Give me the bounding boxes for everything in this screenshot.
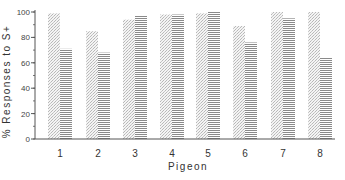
bar-pigeon-8-series-2 xyxy=(320,58,332,139)
bar-pigeon-1-series-1 xyxy=(48,13,60,139)
y-tick-label: 80 xyxy=(21,33,30,42)
bar-pigeon-8-series-1 xyxy=(308,12,320,139)
x-tick-label: 2 xyxy=(95,148,101,159)
bar-pigeon-4-series-1 xyxy=(160,15,172,139)
x-tick-label: 7 xyxy=(280,148,286,159)
bars-group xyxy=(48,12,332,139)
y-tick-label: 0 xyxy=(26,135,31,144)
bar-pigeon-2-series-2 xyxy=(98,53,110,139)
bar-pigeon-6-series-1 xyxy=(233,26,245,139)
x-tick-label: 3 xyxy=(132,148,138,159)
bar-pigeon-7-series-1 xyxy=(271,12,283,139)
y-tick-label: 40 xyxy=(21,84,30,93)
bar-pigeon-3-series-2 xyxy=(135,16,147,139)
x-tick-label: 8 xyxy=(317,148,323,159)
y-axis-title: % Responses to S+ xyxy=(1,25,12,139)
y-tick-label: 100 xyxy=(17,8,31,17)
bar-pigeon-7-series-2 xyxy=(283,18,295,139)
bar-pigeon-1-series-2 xyxy=(60,49,72,139)
bar-pigeon-5-series-2 xyxy=(208,12,220,139)
x-tick-label: 4 xyxy=(169,148,175,159)
bar-pigeon-2-series-1 xyxy=(86,31,98,139)
bar-pigeon-5-series-1 xyxy=(196,13,208,139)
x-axis-title: Pigeon xyxy=(168,161,208,172)
bar-pigeon-6-series-2 xyxy=(245,42,257,139)
y-tick-label: 20 xyxy=(21,110,30,119)
bar-chart: 12345678020406080100Pigeon% Responses to… xyxy=(0,0,345,180)
bar-pigeon-3-series-1 xyxy=(123,20,135,139)
bar-pigeon-4-series-2 xyxy=(172,15,184,139)
x-tick-label: 1 xyxy=(57,148,63,159)
x-tick-label: 6 xyxy=(242,148,248,159)
x-tick-label: 5 xyxy=(205,148,211,159)
y-tick-label: 60 xyxy=(21,59,30,68)
